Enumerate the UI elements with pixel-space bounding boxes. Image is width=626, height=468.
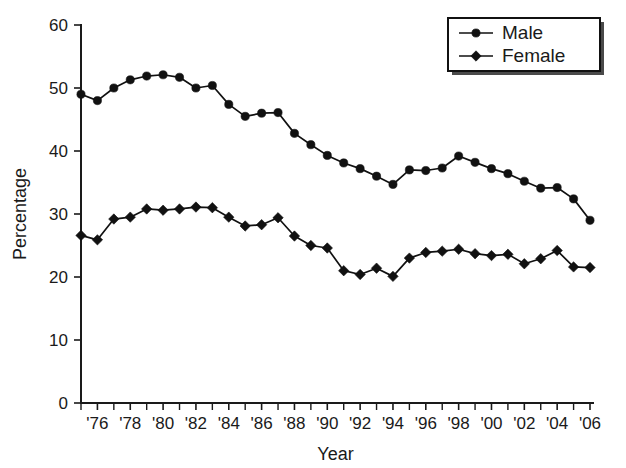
x-tick-label: '88 bbox=[283, 414, 305, 433]
data-point-marker bbox=[470, 248, 480, 258]
y-tick-label: 40 bbox=[49, 142, 68, 161]
data-point-marker bbox=[143, 72, 151, 80]
data-point-marker bbox=[389, 180, 397, 188]
x-tick-label: '96 bbox=[415, 414, 437, 433]
y-tick-label: 50 bbox=[49, 79, 68, 98]
data-point-marker bbox=[93, 97, 101, 105]
x-tick-label: '90 bbox=[316, 414, 338, 433]
data-point-marker bbox=[520, 177, 528, 185]
data-point-marker bbox=[175, 73, 183, 81]
data-point-marker bbox=[290, 129, 298, 137]
x-tick-label: '98 bbox=[448, 414, 470, 433]
y-tick-label: 60 bbox=[49, 16, 68, 35]
data-point-marker bbox=[208, 81, 216, 89]
data-point-marker bbox=[306, 240, 316, 250]
data-point-marker bbox=[77, 90, 85, 98]
x-tick-label: '92 bbox=[349, 414, 371, 433]
data-point-marker bbox=[224, 212, 234, 222]
data-point-marker bbox=[503, 249, 513, 259]
data-point-marker bbox=[274, 108, 282, 116]
x-tick-label: '00 bbox=[480, 414, 502, 433]
data-point-marker bbox=[191, 202, 201, 212]
data-point-marker bbox=[125, 212, 135, 222]
series-male bbox=[77, 71, 594, 225]
data-point-marker bbox=[372, 172, 380, 180]
data-point-marker bbox=[586, 216, 594, 224]
data-point-marker bbox=[307, 141, 315, 149]
data-point-marker bbox=[486, 250, 496, 260]
data-point-marker bbox=[207, 203, 217, 213]
x-tick-label: '80 bbox=[152, 414, 174, 433]
series-line bbox=[81, 207, 590, 276]
data-point-marker bbox=[438, 164, 446, 172]
data-point-marker bbox=[192, 84, 200, 92]
legend-item-label: Female bbox=[502, 45, 565, 66]
data-point-marker bbox=[356, 165, 364, 173]
data-point-marker bbox=[110, 84, 118, 92]
y-tick-label: 0 bbox=[59, 394, 68, 413]
data-point-marker bbox=[159, 71, 167, 79]
x-tick-label: '78 bbox=[119, 414, 141, 433]
data-point-marker bbox=[585, 262, 595, 272]
data-point-marker bbox=[455, 152, 463, 160]
y-tick-label: 10 bbox=[49, 331, 68, 350]
data-point-marker bbox=[437, 246, 447, 256]
data-point-marker bbox=[340, 159, 348, 167]
data-point-marker bbox=[421, 247, 431, 257]
series-female bbox=[76, 202, 595, 282]
data-point-marker bbox=[355, 269, 365, 279]
x-tick-label: '02 bbox=[513, 414, 535, 433]
data-point-marker bbox=[487, 165, 495, 173]
chart-container: 0102030405060 '76'78'80'82'84'86'88'90'9… bbox=[0, 0, 626, 468]
x-tick-label: '04 bbox=[546, 414, 568, 433]
data-point-marker bbox=[405, 166, 413, 174]
x-tick-label: '94 bbox=[382, 414, 404, 433]
data-point-marker bbox=[258, 109, 266, 117]
y-axis-ticks bbox=[74, 25, 81, 403]
data-point-marker bbox=[422, 166, 430, 174]
data-point-marker bbox=[225, 100, 233, 108]
data-point-marker bbox=[240, 221, 250, 231]
data-point-marker bbox=[453, 244, 463, 254]
legend-item-label: Male bbox=[502, 22, 543, 43]
y-tick-label: 30 bbox=[49, 205, 68, 224]
x-axis-title: Year bbox=[317, 444, 353, 464]
x-axis-ticks bbox=[81, 403, 590, 410]
data-point-marker bbox=[371, 263, 381, 273]
y-tick-label: 20 bbox=[49, 268, 68, 287]
x-tick-label: '76 bbox=[86, 414, 108, 433]
y-axis-title: Percentage bbox=[10, 168, 30, 260]
x-tick-label: '82 bbox=[185, 414, 207, 433]
legend-marker-circle-icon bbox=[472, 29, 480, 37]
data-point-marker bbox=[504, 170, 512, 178]
x-tick-label: '06 bbox=[579, 414, 601, 433]
x-axis-tick-labels: '76'78'80'82'84'86'88'90'92'94'96'98'00'… bbox=[86, 414, 601, 433]
data-point-marker bbox=[174, 204, 184, 214]
y-axis-tick-labels: 0102030405060 bbox=[49, 16, 68, 413]
data-point-marker bbox=[141, 204, 151, 214]
data-series-group bbox=[76, 71, 595, 282]
data-point-marker bbox=[519, 259, 529, 269]
data-point-marker bbox=[256, 220, 266, 230]
x-tick-label: '84 bbox=[218, 414, 240, 433]
x-tick-label: '86 bbox=[251, 414, 273, 433]
data-point-marker bbox=[241, 112, 249, 120]
data-point-marker bbox=[536, 254, 546, 264]
line-chart: 0102030405060 '76'78'80'82'84'86'88'90'9… bbox=[0, 0, 626, 468]
series-line bbox=[81, 75, 590, 221]
data-point-marker bbox=[471, 158, 479, 166]
data-point-marker bbox=[76, 230, 86, 240]
data-point-marker bbox=[323, 151, 331, 159]
data-point-marker bbox=[158, 205, 168, 215]
data-point-marker bbox=[553, 183, 561, 191]
chart-legend: MaleFemale bbox=[448, 18, 604, 75]
data-point-marker bbox=[126, 76, 134, 84]
data-point-marker bbox=[537, 184, 545, 192]
data-point-marker bbox=[569, 195, 577, 203]
